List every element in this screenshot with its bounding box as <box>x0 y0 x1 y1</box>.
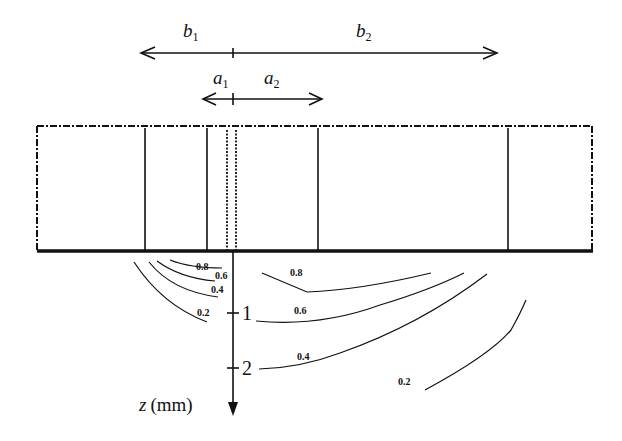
right-contour-0.4: 0.4 <box>297 351 310 362</box>
z-tick-2: 2 <box>242 357 252 379</box>
a-dimension-arrow <box>203 93 322 105</box>
right-contour-0.2: 0.2 <box>398 376 411 387</box>
diagram: b1 b2 a1 a2 1 2 z(mm) <box>0 0 622 441</box>
b2-label: b2 <box>356 20 372 44</box>
right-contour-0.6: 0.6 <box>294 305 307 316</box>
z-axis <box>227 251 239 405</box>
right-contour-0.8: 0.8 <box>290 267 303 278</box>
z-axis-arrowhead <box>228 402 238 416</box>
b-dimension-arrow <box>141 47 497 59</box>
b1-label: b1 <box>183 20 199 44</box>
layer-boundaries <box>145 128 508 250</box>
left-contour-0.4: 0.4 <box>211 284 224 295</box>
left-contour-0.8: 0.8 <box>196 261 209 272</box>
left-contour-0.2: 0.2 <box>197 307 210 318</box>
z-tick-1: 1 <box>242 302 252 324</box>
a1-label: a1 <box>213 67 229 91</box>
right-contours <box>256 273 526 390</box>
center-dotted-lines <box>227 130 236 250</box>
left-contour-0.6: 0.6 <box>215 270 228 281</box>
z-axis-label: z(mm) <box>138 394 193 416</box>
a2-label: a2 <box>264 67 280 91</box>
